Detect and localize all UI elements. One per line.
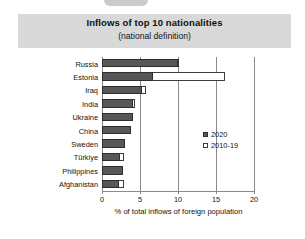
bar-row: Türkiye [102, 151, 254, 164]
chart-subtitle: (national definition) [18, 30, 291, 42]
legend-label-2020: 2020 [211, 130, 227, 139]
gridline-20 [254, 57, 255, 191]
category-label-india: India [82, 99, 98, 108]
category-label-iraq: Iraq [85, 86, 98, 95]
x-tick-5 [140, 191, 141, 194]
bar-2020-ukraine[interactable] [102, 113, 133, 121]
bar-2020-türkiye[interactable] [102, 153, 120, 161]
x-tick-label-15: 15 [212, 195, 220, 204]
chart-title-band: Inflows of top 10 nationalities (nationa… [18, 14, 291, 48]
scan-edge-artifact [104, 0, 148, 6]
plot-area: RussiaEstoniaIraqIndiaUkraineChinaSweden… [102, 57, 254, 191]
bar-2020-iraq[interactable] [102, 86, 142, 94]
category-label-russia: Russia [75, 59, 98, 68]
x-tick-label-20: 20 [250, 195, 258, 204]
bar-row: Philippines [102, 164, 254, 177]
x-axis-title: % of total inflows of foreign population [102, 207, 255, 216]
x-tick-20 [254, 191, 255, 194]
bar-row: Afghanistan [102, 178, 254, 191]
category-label-türkiye: Türkiye [74, 153, 98, 162]
category-label-ukraine: Ukraine [73, 113, 98, 122]
legend-label-2010-19: 2010-19 [211, 141, 238, 150]
bar-2020-china[interactable] [102, 126, 131, 134]
category-label-philippines: Philippines [62, 166, 98, 175]
bar-row: Ukraine [102, 111, 254, 124]
chart-legend: 2020 2010-19 [203, 129, 238, 151]
legend-item-2020[interactable]: 2020 [203, 129, 238, 139]
open-square-icon [203, 143, 208, 148]
x-tick-0 [102, 191, 103, 194]
category-label-afghanistan: Afghanistan [59, 180, 98, 189]
x-tick-label-0: 0 [100, 195, 104, 204]
bar-2020-russia[interactable] [102, 59, 178, 67]
bar-2020-india[interactable] [102, 99, 133, 107]
x-tick-15 [216, 191, 217, 194]
bar-row: Estonia [102, 70, 254, 83]
chart-figure: Inflows of top 10 nationalities (nationa… [0, 0, 305, 239]
filled-square-icon [203, 132, 208, 137]
bar-2020-afghanistan[interactable] [102, 180, 119, 188]
bar-row: Iraq [102, 84, 254, 97]
chart-title: Inflows of top 10 nationalities [18, 17, 291, 29]
x-tick-label-10: 10 [174, 195, 182, 204]
bar-2020-estonia[interactable] [102, 72, 153, 80]
legend-item-2010-19[interactable]: 2010-19 [203, 140, 238, 150]
bar-row: India [102, 97, 254, 110]
category-label-china: China [79, 126, 98, 135]
bar-row: Russia [102, 57, 254, 70]
category-label-sweden: Sweden [71, 140, 98, 149]
x-tick-10 [178, 191, 179, 194]
bar-2020-philippines[interactable] [102, 166, 123, 174]
category-label-estonia: Estonia [73, 73, 98, 82]
x-tick-label-5: 5 [138, 195, 142, 204]
bar-2020-sweden[interactable] [102, 139, 125, 147]
